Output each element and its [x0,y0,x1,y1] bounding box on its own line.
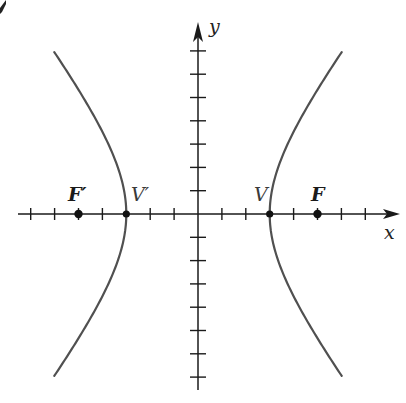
focus-right-label: F [310,183,326,205]
y-axis-label: y [208,15,220,37]
vertex-right-label: V [254,183,270,205]
focus-left-point [74,210,82,218]
focus-left-label: F′ [67,183,87,205]
vertex-left-label: V′ [131,183,150,205]
vertex-left-point [123,210,130,217]
hyperbola-diagram: F′ V′ V F x y [0,0,406,403]
focus-right-point [313,210,321,218]
x-axis-label: x [384,221,395,243]
corner-artifact [0,0,6,14]
vertex-right-point [266,210,273,217]
